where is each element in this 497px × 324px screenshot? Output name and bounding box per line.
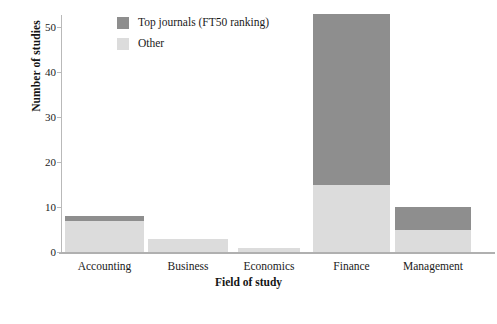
- chart-legend: Top journals (FT50 ranking)Other: [117, 17, 269, 50]
- y-tick-label: 20: [45, 156, 56, 168]
- bar-finance: [313, 14, 390, 252]
- y-tick-label: 50: [45, 21, 56, 33]
- y-tick-label: 30: [45, 111, 56, 123]
- y-tick-mark: [57, 27, 61, 28]
- bar-business: [148, 239, 228, 252]
- legend-swatch-icon: [117, 38, 129, 50]
- bar-segment-other: [65, 221, 144, 252]
- bar-segment-top-journals: [65, 216, 144, 220]
- plot-top-spine: [61, 14, 475, 15]
- bar-segment-other: [148, 239, 228, 252]
- bar-segment-other: [313, 185, 390, 252]
- x-axis-title: Field of study: [0, 276, 497, 288]
- y-tick-mark: [57, 207, 61, 208]
- y-tick-mark: [57, 162, 61, 163]
- y-tick-mark: [57, 117, 61, 118]
- y-tick-label: 10: [45, 201, 56, 213]
- bar-segment-top-journals: [395, 207, 471, 229]
- legend-label: Other: [138, 38, 164, 50]
- legend-item: Top journals (FT50 ranking): [117, 17, 269, 29]
- x-tick-label-economics: Economics: [243, 260, 294, 272]
- x-tick-label-business: Business: [168, 260, 209, 272]
- bar-segment-other: [238, 248, 300, 252]
- y-axis-title: Number of studies: [30, 0, 42, 156]
- y-tick-mark: [57, 252, 61, 253]
- x-tick-label-finance: Finance: [333, 260, 369, 272]
- x-tick-label-management: Management: [403, 260, 463, 272]
- legend-swatch-icon: [117, 17, 129, 29]
- legend-item: Other: [117, 38, 269, 50]
- legend-label: Top journals (FT50 ranking): [138, 17, 269, 29]
- bar-segment-top-journals: [313, 14, 390, 185]
- y-axis-line: [61, 14, 62, 252]
- x-tick-label-accounting: Accounting: [78, 260, 132, 272]
- y-tick-label: 40: [45, 66, 56, 78]
- chart-figure: Number of studies 01020304050 Accounting…: [0, 0, 497, 324]
- x-axis-line: [59, 252, 495, 254]
- y-tick-label: 0: [51, 246, 57, 258]
- bar-segment-other: [395, 230, 471, 252]
- bar-management: [395, 207, 471, 252]
- bar-economics: [238, 248, 300, 252]
- y-tick-mark: [57, 72, 61, 73]
- bar-accounting: [65, 216, 144, 252]
